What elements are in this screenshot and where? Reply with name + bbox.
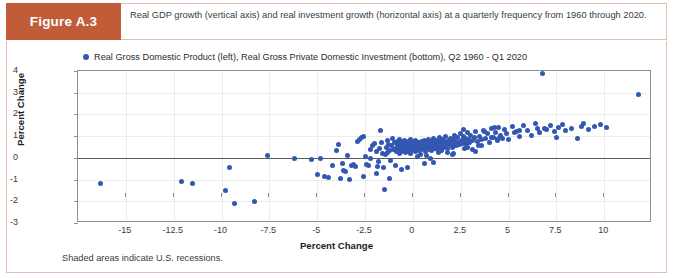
scatter-point <box>252 199 257 204</box>
chart-legend: Real Gross Domestic Product (left), Real… <box>83 52 527 62</box>
legend-label: Real Gross Domestic Product (left), Real… <box>94 52 527 62</box>
scatter-point <box>372 141 377 146</box>
x-tick-mark <box>173 193 174 197</box>
gridline-vertical <box>365 71 366 221</box>
scatter-point <box>470 147 475 152</box>
gridline-vertical <box>222 71 223 221</box>
scatter-point <box>492 125 497 130</box>
y-tick-label: 0 <box>0 152 18 162</box>
x-tick-mark <box>460 193 461 197</box>
scatter-point <box>489 135 494 140</box>
scatter-point <box>318 156 323 161</box>
figure-body: Real Gross Domestic Product (left), Real… <box>6 41 667 273</box>
y-tick-mark <box>74 71 78 72</box>
scatter-point <box>377 146 382 151</box>
figure-container: Figure A.3 Real GDP growth (vertical axi… <box>0 0 673 278</box>
scatter-point <box>223 188 228 193</box>
scatter-point <box>292 156 297 161</box>
scatter-point <box>540 71 545 76</box>
scatter-point <box>579 124 584 129</box>
figure-number-label: Figure A.3 <box>30 14 98 29</box>
x-tick-label: -12.5 <box>162 225 183 235</box>
scatter-point <box>338 176 343 181</box>
scatter-point <box>422 161 427 166</box>
scatter-point <box>393 163 398 168</box>
gridline-horizontal <box>78 114 650 115</box>
scatter-point <box>493 130 498 135</box>
x-tick-label: -15 <box>118 225 131 235</box>
scatter-point <box>487 140 492 145</box>
x-tick-label: 10 <box>598 225 608 235</box>
scatter-point <box>506 137 511 142</box>
scatter-point <box>232 201 237 206</box>
scatter-point <box>366 163 371 168</box>
x-tick-mark <box>603 193 604 197</box>
x-tick-label: 2.5 <box>453 225 466 235</box>
y-tick-mark <box>74 223 78 224</box>
gridline-horizontal <box>78 93 650 94</box>
gridline-vertical <box>126 71 127 221</box>
x-tick-mark <box>412 193 413 197</box>
scatter-point <box>548 123 553 128</box>
x-tick-mark <box>125 193 126 197</box>
scatter-point <box>330 163 335 168</box>
scatter-point <box>517 128 522 133</box>
y-tick-label: -2 <box>0 195 18 205</box>
scatter-point <box>378 128 383 133</box>
scatter-point <box>363 154 368 159</box>
y-tick-label: 1 <box>0 130 18 140</box>
x-tick-label: -2.5 <box>356 225 372 235</box>
scatter-point <box>521 123 526 128</box>
scatter-point <box>98 181 103 186</box>
x-tick-mark <box>268 193 269 197</box>
scatter-point <box>179 179 184 184</box>
scatter-point <box>388 158 393 163</box>
scatter-point <box>529 133 534 138</box>
x-tick-mark <box>221 193 222 197</box>
scatter-point <box>382 187 387 192</box>
gridline-vertical <box>604 71 605 221</box>
scatter-point <box>227 165 232 170</box>
y-tick-mark <box>74 201 78 202</box>
scatter-point <box>361 174 366 179</box>
scatter-point <box>405 165 410 170</box>
scatter-point <box>586 127 591 132</box>
scatter-point <box>569 126 574 131</box>
scatter-point <box>510 124 515 129</box>
scatter-point <box>361 134 366 139</box>
scatter-point <box>374 171 379 176</box>
scatter-point <box>575 136 580 141</box>
scatter-point <box>375 164 380 169</box>
scatter-point <box>399 167 404 172</box>
x-tick-mark <box>555 193 556 197</box>
y-tick-label: -1 <box>0 174 18 184</box>
y-tick-label: 4 <box>0 65 18 75</box>
y-tick-label: -3 <box>0 217 18 227</box>
scatter-point <box>560 122 565 127</box>
scatter-point <box>336 142 341 147</box>
gridline-vertical <box>174 71 175 221</box>
scatter-point <box>537 130 542 135</box>
scatter-point <box>376 159 381 164</box>
scatter-point <box>379 140 384 145</box>
scatter-point <box>190 181 195 186</box>
x-tick-label: -7.5 <box>261 225 277 235</box>
x-axis-title: Percent Change <box>7 240 666 251</box>
scatter-point <box>592 124 597 129</box>
legend-marker-icon <box>83 54 89 60</box>
scatter-point <box>636 92 641 97</box>
scatter-point <box>340 161 345 166</box>
scatter-point <box>517 134 522 139</box>
y-tick-mark <box>74 93 78 94</box>
scatter-point <box>598 122 603 127</box>
scatter-point <box>334 148 339 153</box>
scatter-point <box>347 177 352 182</box>
y-tick-label: 3 <box>0 87 18 97</box>
x-tick-label: 5 <box>505 225 510 235</box>
scatter-point <box>315 172 320 177</box>
figure-number-badge: Figure A.3 <box>6 3 121 40</box>
y-tick-label: 2 <box>0 108 18 118</box>
gridline-vertical <box>317 71 318 221</box>
scatter-point <box>512 130 517 135</box>
scatter-point <box>554 135 559 140</box>
